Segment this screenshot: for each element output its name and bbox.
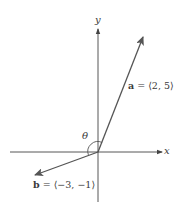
vector-b-components: ⟨−3, −1⟩ [54, 179, 95, 190]
vector-b-name: b [33, 179, 40, 190]
theta-label: θ [82, 131, 88, 141]
vector-b-label: b = ⟨−3, −1⟩ [33, 180, 95, 190]
vector-a-arrow [98, 37, 143, 152]
vector-diagram: y x θ a = ⟨2, 5⟩ b = ⟨−3, −1⟩ [0, 0, 181, 210]
vector-a-components: ⟨2, 5⟩ [148, 80, 174, 91]
x-axis-label: x [164, 146, 170, 156]
vector-b-arrow [35, 152, 98, 175]
y-axis-label: y [95, 15, 101, 25]
vector-b-equals: = [40, 179, 54, 190]
vector-a-equals: = [134, 80, 148, 91]
vector-a-label: a = ⟨2, 5⟩ [128, 81, 174, 91]
